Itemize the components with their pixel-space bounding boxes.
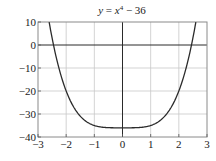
x-tick-label: 0 bbox=[120, 138, 126, 150]
chart-title: y = x4 − 36 bbox=[97, 4, 146, 16]
y-tick-label: −30 bbox=[19, 108, 37, 120]
y-tick-label: −10 bbox=[19, 62, 37, 74]
axes bbox=[38, 22, 207, 137]
x-tick-label: 1 bbox=[148, 138, 154, 150]
title-eq: = bbox=[103, 4, 115, 16]
x-tick-label: 3 bbox=[204, 138, 210, 150]
title-rest: − 36 bbox=[123, 4, 146, 16]
x-tick-labels: −3−2−10123 bbox=[32, 138, 210, 150]
y-tick-labels: 100−10−20−30−40 bbox=[19, 16, 37, 143]
y-tick-label: 10 bbox=[25, 16, 37, 28]
x-tick-label: −2 bbox=[60, 138, 72, 150]
y-tick-label: −40 bbox=[19, 131, 37, 143]
function-plot: y = x4 − 36 −3−2−10123 100−10−20−30−40 bbox=[0, 0, 216, 161]
y-tick-label: 0 bbox=[31, 39, 37, 51]
y-tick-label: −20 bbox=[19, 85, 37, 97]
x-tick-label: −1 bbox=[88, 138, 100, 150]
x-tick-label: 2 bbox=[176, 138, 182, 150]
